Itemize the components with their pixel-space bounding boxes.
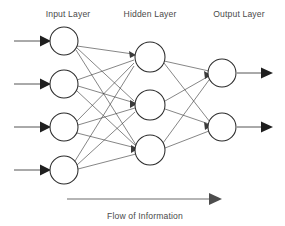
hidden-node-1 [135, 42, 165, 72]
edge-i2-h1 [77, 60, 134, 80]
input-arrow-3 [14, 122, 51, 133]
arrowhead-input-1 [40, 36, 51, 47]
arrowhead-input-3 [40, 122, 51, 133]
layer-labels-group: Input Layer Hidden Layer Output Layer [46, 9, 265, 19]
input-node-4 [50, 156, 78, 184]
edge-i1-h3 [76, 50, 136, 145]
output-result-arrows-group [237, 68, 273, 133]
flow-of-information-group: Flow of Information [67, 193, 222, 221]
arrowhead-flow [209, 193, 222, 205]
flow-of-information-caption: Flow of Information [107, 211, 183, 221]
edge-h2-o1 [165, 76, 209, 101]
edge-h3-o2 [165, 131, 209, 148]
edge-i1-h2 [77, 48, 134, 101]
output-layer-nodes-group [208, 59, 236, 141]
output-layer-label: Output Layer [213, 9, 264, 19]
input-node-3 [50, 113, 78, 141]
output-arrow-1 [237, 68, 273, 79]
input-arrow-1 [14, 36, 51, 47]
arrowhead-output-2 [261, 122, 273, 133]
output-node-2 [208, 113, 236, 141]
edge-h1-o2 [164, 63, 210, 122]
edge-i3-h3 [77, 133, 136, 148]
edge-i4-h2 [77, 112, 135, 165]
neural-network-diagram: Input Layer Hidden Layer Output Layer [0, 0, 285, 226]
input-node-1 [50, 27, 78, 55]
arrowhead-input-4 [40, 165, 51, 176]
output-arrow-2 [237, 122, 273, 133]
input-feed-arrows-group [14, 36, 51, 176]
input-node-2 [50, 70, 78, 98]
hidden-layer-label: Hidden Layer [124, 9, 177, 19]
edge-h2-o2 [165, 109, 209, 124]
hidden-layer-nodes-group [135, 42, 165, 165]
edge-i1-h1 [77, 46, 133, 54]
edge-i2-h2 [78, 86, 135, 103]
arrowhead-output-1 [261, 68, 273, 79]
hidden-to-output-edges-group [163, 61, 210, 148]
edge-h1-o1 [164, 61, 209, 71]
hidden-node-3 [135, 135, 165, 165]
input-layer-label: Input Layer [46, 9, 91, 19]
arrowhead-input-2 [40, 79, 51, 90]
neural-network-canvas: Input Layer Hidden Layer Output Layer [0, 0, 285, 226]
input-arrow-4 [14, 165, 51, 176]
input-arrow-2 [14, 79, 51, 90]
input-to-hidden-edges-group [75, 46, 136, 169]
input-layer-nodes-group [50, 27, 78, 184]
edge-i4-h1 [75, 66, 134, 161]
hidden-node-2 [135, 90, 165, 120]
output-node-1 [208, 59, 236, 87]
